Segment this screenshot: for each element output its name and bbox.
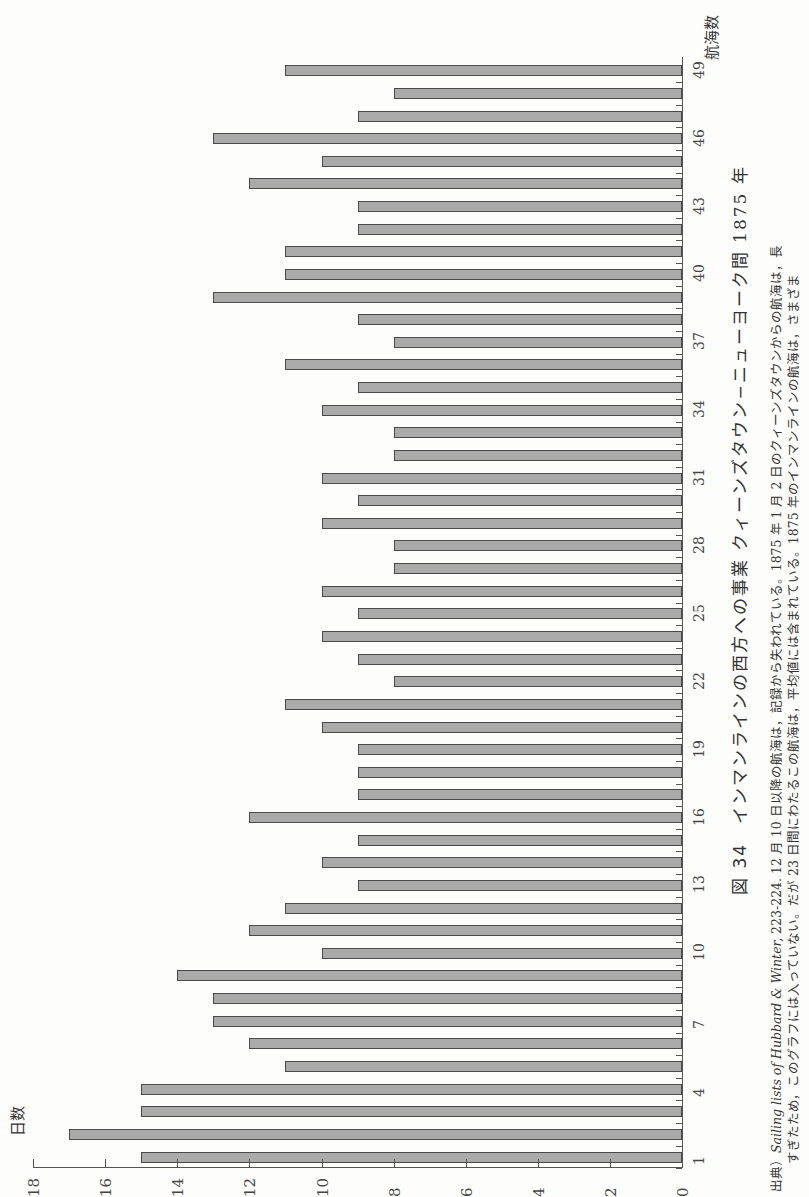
category-tick bbox=[676, 716, 682, 717]
category-tick bbox=[676, 625, 682, 626]
category-tick bbox=[676, 829, 682, 830]
value-tick-label: 14 bbox=[169, 1178, 187, 1197]
value-tick-label: 16 bbox=[97, 1178, 115, 1197]
bar-voyage-36 bbox=[285, 359, 682, 370]
value-tick bbox=[105, 1159, 106, 1167]
bar-voyage-15 bbox=[358, 835, 682, 846]
bar-voyage-27 bbox=[394, 563, 682, 574]
category-tick bbox=[676, 489, 682, 490]
source-note-text-2: すぎたため，このグラフには入っていない。だが 23 日間にわたるこの航海は，平均… bbox=[785, 22, 802, 1192]
category-tick bbox=[676, 1078, 682, 1079]
category-tick bbox=[676, 557, 682, 558]
bar-voyage-42 bbox=[358, 224, 682, 235]
value-tick-label: 8 bbox=[386, 1187, 404, 1197]
category-tick bbox=[676, 195, 682, 196]
value-tick bbox=[682, 1159, 683, 1167]
category-tick bbox=[676, 512, 682, 513]
category-tick bbox=[676, 127, 682, 128]
category-tick-label: 37 bbox=[691, 332, 707, 350]
category-tick-label: 19 bbox=[691, 740, 707, 758]
category-tick bbox=[676, 263, 682, 264]
bar-voyage-34 bbox=[322, 405, 683, 416]
category-tick bbox=[676, 1123, 682, 1124]
category-tick bbox=[676, 444, 682, 445]
bar-voyage-17 bbox=[358, 789, 682, 800]
bar-voyage-28 bbox=[394, 540, 682, 551]
category-tick-label: 1 bbox=[691, 1156, 707, 1165]
category-tick bbox=[676, 965, 682, 966]
value-axis-title: 日数 bbox=[6, 1106, 27, 1136]
category-tick bbox=[676, 173, 682, 174]
category-tick bbox=[676, 240, 682, 241]
category-tick-label: 22 bbox=[691, 672, 707, 690]
figure-number: 図 34 bbox=[730, 843, 750, 895]
bar-voyage-2 bbox=[69, 1129, 682, 1140]
category-tick-label: 16 bbox=[691, 808, 707, 826]
category-tick bbox=[676, 670, 682, 671]
category-tick bbox=[676, 603, 682, 604]
value-tick bbox=[394, 1159, 395, 1167]
category-tick bbox=[676, 1010, 682, 1011]
category-tick bbox=[676, 874, 682, 875]
category-tick bbox=[676, 535, 682, 536]
category-tick bbox=[676, 784, 682, 785]
category-tick bbox=[676, 919, 682, 920]
bar-voyage-3 bbox=[141, 1106, 682, 1117]
value-tick bbox=[249, 1159, 250, 1167]
category-tick bbox=[676, 1055, 682, 1056]
bar-voyage-37 bbox=[394, 337, 682, 348]
bar-voyage-14 bbox=[322, 857, 683, 868]
category-tick-label: 43 bbox=[691, 197, 707, 215]
bar-voyage-44 bbox=[249, 178, 682, 189]
value-tick-label: 18 bbox=[25, 1178, 43, 1197]
bar-voyage-9 bbox=[177, 970, 682, 981]
bar-voyage-35 bbox=[358, 382, 682, 393]
category-tick-label: 28 bbox=[691, 536, 707, 554]
category-tick-label: 34 bbox=[691, 400, 707, 418]
bar-voyage-48 bbox=[394, 88, 682, 99]
bar-voyage-31 bbox=[322, 473, 683, 484]
bar-voyage-20 bbox=[322, 722, 683, 733]
category-tick-label: 49 bbox=[691, 61, 707, 79]
category-tick-label: 25 bbox=[691, 604, 707, 622]
bar-voyage-29 bbox=[322, 518, 683, 529]
bar-voyage-6 bbox=[249, 1038, 682, 1049]
bar-voyage-21 bbox=[285, 699, 682, 710]
category-tick bbox=[676, 376, 682, 377]
figure-caption: 図 34 インマンラインの西方への事業 クィーンズタウン−ニューヨーク間 187… bbox=[726, 165, 751, 895]
category-tick bbox=[676, 806, 682, 807]
value-tick bbox=[610, 1159, 611, 1167]
bar-voyage-30 bbox=[358, 495, 682, 506]
value-axis-line bbox=[33, 1167, 683, 1168]
value-tick-label: 0 bbox=[674, 1187, 692, 1197]
category-tick-label: 7 bbox=[691, 1020, 707, 1029]
figure-title: インマンラインの西方への事業 クィーンズタウン−ニューヨーク間 1875 年 bbox=[730, 165, 750, 824]
category-tick bbox=[676, 580, 682, 581]
value-tick bbox=[466, 1159, 467, 1167]
category-axis-title: 航海数 bbox=[700, 15, 721, 60]
bar-voyage-23 bbox=[358, 654, 682, 665]
category-tick bbox=[676, 1168, 682, 1169]
bar-voyage-26 bbox=[322, 586, 683, 597]
bar-voyage-38 bbox=[358, 314, 682, 325]
value-tick-label: 2 bbox=[602, 1187, 620, 1197]
category-tick bbox=[676, 150, 682, 151]
bar-voyage-4 bbox=[141, 1084, 682, 1095]
bar-voyage-24 bbox=[322, 631, 683, 642]
category-tick bbox=[676, 422, 682, 423]
category-tick bbox=[676, 399, 682, 400]
category-tick bbox=[676, 648, 682, 649]
bar-voyage-32 bbox=[394, 450, 682, 461]
bar-voyage-41 bbox=[285, 246, 682, 257]
bar-voyage-10 bbox=[322, 948, 683, 959]
category-tick-label: 31 bbox=[691, 468, 707, 486]
category-tick bbox=[676, 105, 682, 106]
bar-voyage-16 bbox=[249, 812, 682, 823]
value-tick-label: 10 bbox=[314, 1178, 332, 1197]
category-tick bbox=[676, 354, 682, 355]
source-note-line-1: 出典）Sailing lists of Hubbard & Winter, 22… bbox=[768, 22, 802, 1192]
bar-chart: 0246810121416181471013161922252831343740… bbox=[0, 0, 809, 1197]
bar-voyage-33 bbox=[394, 427, 682, 438]
category-tick bbox=[676, 693, 682, 694]
category-tick-label: 40 bbox=[691, 265, 707, 283]
